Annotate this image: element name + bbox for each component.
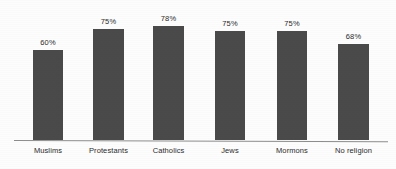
bar-muslims <box>33 50 63 140</box>
value-label-no-religion: 68% <box>338 32 369 41</box>
category-label-jews: Jews <box>195 146 265 155</box>
value-label-catholics: 78% <box>153 14 184 23</box>
value-label-mormons: 75% <box>277 19 307 28</box>
plot-area: 60% Muslims 75% Protestants 78% Catholic… <box>0 0 396 169</box>
bar-catholics <box>153 26 184 140</box>
bar-chart: 60% Muslims 75% Protestants 78% Catholic… <box>0 0 396 169</box>
bar-protestants <box>93 29 124 140</box>
category-label-catholics: Catholics <box>133 146 204 155</box>
value-label-jews: 75% <box>215 19 245 28</box>
bar-jews <box>215 31 245 140</box>
value-label-muslims: 60% <box>33 38 63 47</box>
category-label-mormons: Mormons <box>257 146 327 155</box>
bar-mormons <box>277 31 307 140</box>
value-label-protestants: 75% <box>93 17 124 26</box>
x-axis-baseline <box>14 140 388 142</box>
bar-no-religion <box>338 44 369 140</box>
category-label-no-religion: No religion <box>318 146 389 155</box>
